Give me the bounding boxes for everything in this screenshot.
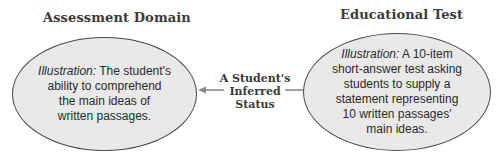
connector-lines	[0, 0, 503, 157]
arrow-left-icon	[198, 87, 224, 94]
